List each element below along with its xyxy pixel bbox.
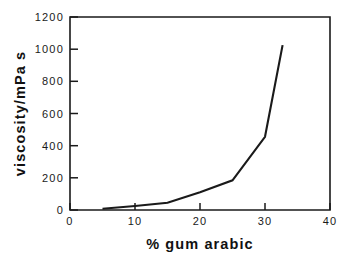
plot-area-background <box>70 17 330 210</box>
y-tick-labels: 0 200 400 600 800 1000 1200 <box>35 11 64 216</box>
x-tick-label: 0 <box>66 215 73 227</box>
y-tick-label: 600 <box>42 108 64 120</box>
y-axis-title: viscosity/mPa s <box>12 51 28 176</box>
x-tick-label: 30 <box>258 215 273 227</box>
y-tick-label: 1000 <box>35 43 64 55</box>
x-tick-labels: 0 10 20 30 40 <box>66 215 337 227</box>
y-tick-label: 1200 <box>35 11 64 23</box>
x-tick-label: 40 <box>323 215 338 227</box>
x-tick-label: 20 <box>193 215 208 227</box>
viscosity-line-chart: 0 200 400 600 800 1000 1200 0 10 20 30 4… <box>0 0 351 266</box>
y-tick-label: 200 <box>42 172 64 184</box>
chart-figure: 0 200 400 600 800 1000 1200 0 10 20 30 4… <box>0 0 351 266</box>
x-axis-title: % gum arabic <box>146 236 253 252</box>
x-tick-label: 10 <box>128 215 143 227</box>
y-tick-label: 0 <box>57 204 64 216</box>
y-tick-label: 800 <box>42 75 64 87</box>
y-tick-label: 400 <box>42 140 64 152</box>
